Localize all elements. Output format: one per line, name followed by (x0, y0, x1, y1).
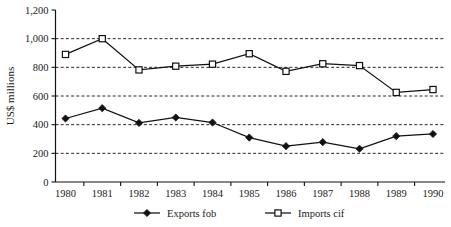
x-tick-label-1983: 1983 (165, 188, 186, 199)
point-imports-cif-1980 (62, 51, 68, 57)
point-imports-cif-1986 (283, 68, 289, 74)
y-tick-label-1000: 1,000 (25, 33, 49, 44)
point-exports-fob-1980 (62, 115, 69, 122)
point-imports-cif-1989 (393, 89, 399, 95)
y-tick-label-200: 200 (33, 148, 49, 159)
point-exports-fob-1988 (356, 145, 363, 152)
x-tick-label-1986: 1986 (276, 188, 297, 199)
y-tick-label-600: 600 (33, 91, 49, 102)
point-exports-fob-1982 (135, 119, 142, 126)
x-tick-label-1990: 1990 (423, 188, 444, 199)
x-tick-label-1989: 1989 (386, 188, 407, 199)
point-exports-fob-1981 (99, 105, 106, 112)
y-tick-label-0: 0 (43, 177, 48, 188)
point-exports-fob-1990 (429, 130, 436, 137)
point-imports-cif-1988 (356, 63, 362, 69)
x-tick-label-1988: 1988 (349, 188, 370, 199)
point-imports-cif-1984 (209, 61, 215, 67)
point-imports-cif-1981 (99, 36, 105, 42)
y-tick-label-800: 800 (33, 62, 49, 73)
x-tick-label-1982: 1982 (129, 188, 150, 199)
legend-label-0: Exports fob (167, 208, 216, 219)
point-imports-cif-1990 (430, 86, 436, 92)
x-tick-label-1984: 1984 (202, 188, 224, 199)
y-tick-label-400: 400 (33, 119, 49, 130)
point-exports-fob-1985 (246, 134, 253, 141)
y-tick-label-1200: 1,200 (25, 5, 49, 16)
line-chart: 02004006008001,0001,200US$ millions19801… (0, 0, 451, 227)
point-imports-cif-1983 (173, 63, 179, 69)
point-exports-fob-1986 (282, 143, 289, 150)
point-exports-fob-1989 (393, 133, 400, 140)
point-exports-fob-1984 (209, 119, 216, 126)
point-imports-cif-1985 (246, 51, 252, 57)
x-tick-label-1985: 1985 (239, 188, 260, 199)
legend-marker-0 (143, 209, 150, 216)
point-imports-cif-1982 (136, 67, 142, 73)
point-imports-cif-1987 (320, 61, 326, 67)
x-tick-label-1987: 1987 (312, 188, 333, 199)
point-exports-fob-1987 (319, 139, 326, 146)
series-line-exports-fob (66, 108, 434, 149)
chart-canvas: 02004006008001,0001,200US$ millions19801… (0, 0, 451, 227)
series-line-imports-cif (66, 39, 434, 93)
legend-label-1: Imports cif (298, 208, 345, 219)
x-tick-label-1981: 1981 (92, 188, 113, 199)
point-exports-fob-1983 (172, 114, 179, 121)
legend-marker-1 (275, 210, 281, 216)
y-axis-title: US$ millions (4, 67, 16, 125)
x-tick-label-1980: 1980 (55, 188, 76, 199)
